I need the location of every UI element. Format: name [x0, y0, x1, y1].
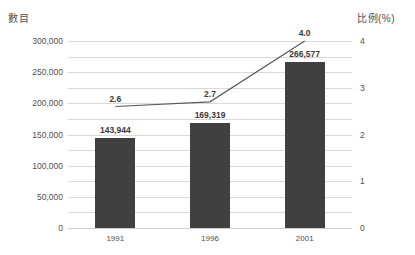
bar-value-label: 266,577: [289, 49, 320, 59]
combo-chart: 數目 比例(%) 050,000100,000150,000200,000250…: [0, 0, 415, 255]
left-axis-tick-label: 250,000: [1, 67, 63, 77]
left-axis-tick-label: 150,000: [1, 130, 63, 140]
gridline: [68, 228, 352, 229]
line-value-label: 2.7: [204, 89, 216, 99]
left-axis-title: 數目: [8, 10, 29, 25]
right-axis-title: 比例(%): [357, 10, 395, 25]
left-axis-tick-label: 200,000: [1, 98, 63, 108]
left-axis-tick-label: 300,000: [1, 36, 63, 46]
left-axis-tick-label: 50,000: [1, 192, 63, 202]
left-axis-tick-label: 0: [1, 223, 63, 233]
bar-value-label: 169,319: [195, 110, 226, 120]
category-label: 1991: [106, 234, 124, 243]
line-value-label: 4.0: [299, 28, 311, 38]
right-axis-tick-label: 2: [360, 130, 390, 140]
left-axis-tick-label: 100,000: [1, 161, 63, 171]
line-value-label: 2.6: [109, 94, 121, 104]
category-label: 1996: [201, 234, 219, 243]
right-axis-tick-label: 0: [360, 223, 390, 233]
right-axis-tick-label: 3: [360, 83, 390, 93]
right-axis-tick-label: 4: [360, 36, 390, 46]
category-label: 2001: [296, 234, 314, 243]
right-axis-tick-label: 1: [360, 176, 390, 186]
bar-value-label: 143,944: [100, 125, 131, 135]
